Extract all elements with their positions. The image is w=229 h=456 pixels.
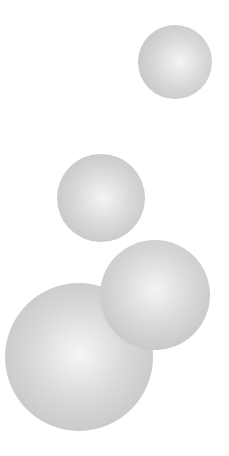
sphere-lower-right (100, 240, 210, 350)
sphere-top-right (138, 25, 212, 99)
sphere-middle (57, 154, 145, 242)
sphere-illustration (0, 0, 229, 456)
